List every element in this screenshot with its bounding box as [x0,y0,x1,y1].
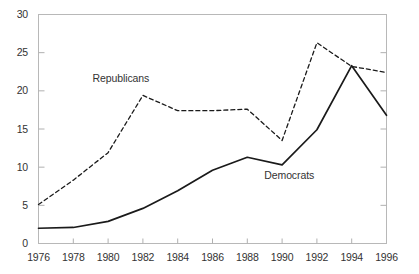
x-tick-label: 1988 [230,251,264,263]
y-axis-ticks [39,53,45,206]
x-tick-label: 1986 [196,251,230,263]
data-series-group [39,43,387,228]
y-tick-label: 10 [8,161,28,173]
y-tick-label: 25 [8,46,28,58]
y-tick-label: 20 [8,84,28,96]
chart-container: 051015202530 197619781980198219841986198… [0,0,419,274]
y-tick-label: 15 [8,123,28,135]
series-label-democrats: Democrats [264,169,314,181]
plot-frame [39,15,387,244]
x-tick-label: 1982 [126,251,160,263]
y-axis-ticks-right [381,53,387,206]
x-axis-ticks [73,239,351,244]
x-tick-label: 1996 [370,251,404,263]
y-tick-label: 0 [8,237,28,249]
x-tick-label: 1992 [300,251,334,263]
series-line-republicans [39,43,387,205]
x-tick-label: 1984 [161,251,195,263]
x-tick-label: 1976 [22,251,56,263]
y-tick-label: 5 [8,199,28,211]
x-tick-label: 1980 [91,251,125,263]
x-tick-label: 1990 [265,251,299,263]
series-line-democrats [39,66,387,229]
series-label-republicans: Republicans [93,72,150,84]
x-tick-label: 1978 [56,251,90,263]
x-tick-label: 1994 [335,251,369,263]
y-tick-label: 30 [8,8,28,20]
line-chart-plot [0,0,419,274]
